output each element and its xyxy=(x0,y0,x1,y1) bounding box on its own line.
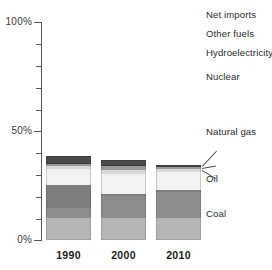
y-axis-label-100-text: 100% xyxy=(6,16,32,27)
segment-2000-nuclear xyxy=(101,174,146,194)
legend-label-net-imports[interactable]: Net imports xyxy=(206,9,256,20)
y-axis-tick-40 xyxy=(36,153,41,154)
y-axis-label-50-text: 50% xyxy=(11,125,32,136)
leader-line-other-fuels xyxy=(202,166,216,169)
y-axis-tick-0 xyxy=(34,240,41,241)
segment-1990-other-fuels xyxy=(46,164,91,166)
segment-2010-net-imports xyxy=(156,165,201,167)
x-axis-label-2000: 2000 xyxy=(101,249,146,261)
y-axis-tick-30 xyxy=(36,175,41,176)
legend-label-other-fuels[interactable]: Other fuels xyxy=(206,28,254,39)
y-axis-tick-80 xyxy=(36,66,41,67)
segment-2000-hydroelectricity xyxy=(101,170,146,174)
segment-2010-natural-gas xyxy=(156,190,201,192)
segment-2010-nuclear xyxy=(156,172,201,190)
legend-label-coal[interactable]: Coal xyxy=(206,208,226,219)
y-axis-label-0-text: 0% xyxy=(17,234,32,245)
y-axis-tick-20 xyxy=(36,197,41,198)
legend-label-natural-gas[interactable]: Natural gas xyxy=(206,126,256,137)
segment-2000-oil xyxy=(101,196,146,218)
segment-2000-other-fuels xyxy=(101,166,146,170)
y-axis-label-50: 50% xyxy=(0,125,32,137)
segment-2010-other-fuels xyxy=(156,167,201,169)
y-axis-tick-50 xyxy=(34,131,41,132)
leader-line-net-imports xyxy=(202,151,217,167)
y-axis-tick-90 xyxy=(36,44,41,45)
segment-1990-hydroelectricity xyxy=(46,166,91,169)
segment-1990-oil xyxy=(46,208,91,218)
chart-page: 100% 50% 0% xyxy=(0,0,272,270)
segment-1990-net-imports xyxy=(46,156,91,164)
legend-label-nuclear[interactable]: Nuclear xyxy=(206,71,240,82)
y-axis-label-100: 100% xyxy=(0,16,32,28)
y-axis-tick-100 xyxy=(34,22,41,23)
segment-2000-natural-gas xyxy=(101,194,146,196)
x-axis-label-2010: 2010 xyxy=(156,249,201,261)
y-axis-line xyxy=(41,22,42,241)
legend-label-hydroelectricity[interactable]: Hydroelectricity xyxy=(206,47,272,58)
segment-2010-hydroelectricity xyxy=(156,169,201,172)
segment-2010-coal xyxy=(156,218,201,240)
legend-label-oil[interactable]: Oil xyxy=(206,173,218,184)
y-axis-tick-60 xyxy=(36,110,41,111)
segment-2000-coal xyxy=(101,218,146,240)
segment-1990-natural-gas xyxy=(46,185,91,208)
y-axis-tick-10 xyxy=(36,219,41,220)
y-axis-tick-70 xyxy=(36,88,41,89)
y-axis-label-0: 0% xyxy=(0,234,32,246)
segment-1990-nuclear xyxy=(46,169,91,185)
segment-2000-net-imports xyxy=(101,160,146,166)
stacked-bar-chart: 100% 50% 0% xyxy=(0,0,272,270)
segment-1990-coal xyxy=(46,218,91,240)
segment-2010-oil xyxy=(156,192,201,218)
x-axis-label-1990: 1990 xyxy=(46,249,91,261)
